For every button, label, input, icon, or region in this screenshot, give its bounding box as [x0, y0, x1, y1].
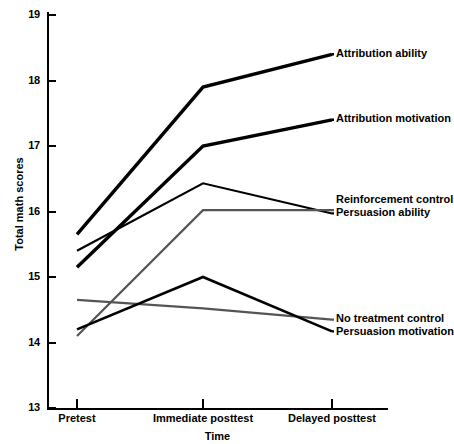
plot-area: 13141516171819 PretestImmediate posttest… — [0, 0, 454, 444]
series-line — [77, 183, 332, 251]
x-axis-title: Time — [47, 430, 388, 442]
series-label: Persuasion ability — [336, 206, 430, 219]
series-lines — [0, 0, 454, 444]
series-label: Persuasion motivation — [336, 325, 454, 338]
series-label: Attribution motivation — [336, 112, 451, 125]
line-chart-figure: 13141516171819 PretestImmediate posttest… — [0, 0, 454, 444]
y-axis-title: Total math scores — [13, 129, 25, 279]
series-line — [77, 277, 332, 331]
series-label: Reinforcement control — [336, 193, 453, 206]
series-line — [77, 120, 332, 267]
series-label: Attribution ability — [336, 47, 427, 60]
series-label: No treatment control — [336, 312, 444, 325]
